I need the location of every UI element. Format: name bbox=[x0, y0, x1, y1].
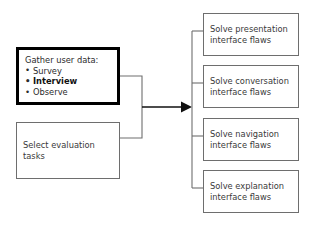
solve-conversation-line2: interface flaws bbox=[210, 87, 292, 98]
select-evaluation-tasks-line2: tasks bbox=[23, 151, 113, 162]
solve-explanation-line1: Solve explanation bbox=[210, 181, 284, 191]
solve-navigation-line1: Solve navigation bbox=[210, 129, 279, 139]
list-item-survey: Survey bbox=[25, 66, 111, 77]
select-evaluation-tasks-label: Select evaluation tasks bbox=[17, 140, 119, 161]
arrow-head-icon bbox=[181, 102, 192, 113]
gather-user-data-list: Survey Interview Observe bbox=[19, 66, 117, 98]
flowchart-diagram: Gather user data: Survey Interview Obser… bbox=[0, 0, 315, 225]
node-solve-presentation[interactable]: Solve presentation interface flaws bbox=[203, 13, 299, 56]
node-select-evaluation-tasks[interactable]: Select evaluation tasks bbox=[16, 122, 120, 179]
gather-user-data-title: Gather user data: bbox=[19, 55, 117, 66]
solve-presentation-label: Solve presentation interface flaws bbox=[204, 24, 298, 45]
node-solve-conversation[interactable]: Solve conversation interface flaws bbox=[203, 65, 299, 108]
solve-conversation-label: Solve conversation interface flaws bbox=[204, 76, 298, 97]
select-evaluation-tasks-line1: Select evaluation bbox=[23, 140, 95, 150]
solve-presentation-line1: Solve presentation bbox=[210, 24, 288, 34]
solve-presentation-line2: interface flaws bbox=[210, 35, 292, 46]
left-merge-path bbox=[120, 76, 142, 138]
solve-explanation-line2: interface flaws bbox=[210, 192, 292, 203]
list-item-observe: Observe bbox=[25, 87, 111, 98]
solve-explanation-label: Solve explanation interface flaws bbox=[204, 181, 298, 202]
solve-conversation-line1: Solve conversation bbox=[210, 76, 289, 86]
node-gather-user-data[interactable]: Gather user data: Survey Interview Obser… bbox=[16, 47, 120, 105]
list-item-interview: Interview bbox=[25, 76, 111, 87]
solve-navigation-label: Solve navigation interface flaws bbox=[204, 129, 298, 150]
node-solve-navigation[interactable]: Solve navigation interface flaws bbox=[203, 118, 299, 161]
solve-navigation-line2: interface flaws bbox=[210, 140, 292, 151]
node-solve-explanation[interactable]: Solve explanation interface flaws bbox=[203, 170, 299, 213]
